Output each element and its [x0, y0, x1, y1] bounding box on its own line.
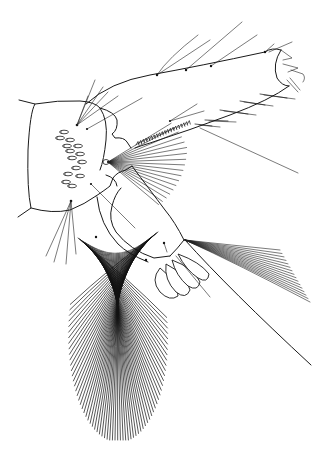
specimen-drawing — [0, 0, 331, 454]
large-brush — [69, 232, 168, 440]
lower-left-tuft — [46, 201, 76, 264]
comb-row — [136, 121, 190, 145]
right-brush — [185, 240, 311, 365]
distal-segment — [86, 42, 305, 148]
petal-lobes — [155, 254, 210, 298]
sensilla-ovals — [56, 130, 87, 188]
illustration-canvas — [0, 0, 331, 454]
dorsal-setae — [156, 22, 274, 76]
basal-segment — [18, 100, 106, 217]
